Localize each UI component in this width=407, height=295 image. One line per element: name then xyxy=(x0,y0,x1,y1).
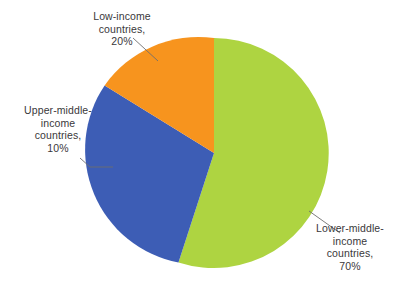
pie-label-low-income: Low-income countries, 20% xyxy=(66,10,178,48)
pie-label-lower-middle-income: Lower-middle- income countries, 70% xyxy=(294,222,406,272)
pie-label-upper-middle-income: Upper-middle- income countries, 10% xyxy=(2,104,114,154)
pie-chart-figure: Low-income countries, 20% Upper-middle- … xyxy=(0,0,407,295)
